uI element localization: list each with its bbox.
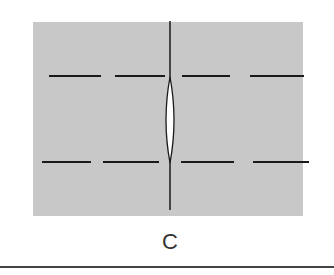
panel-label: C bbox=[0, 229, 334, 255]
bottom-rule bbox=[0, 266, 334, 268]
